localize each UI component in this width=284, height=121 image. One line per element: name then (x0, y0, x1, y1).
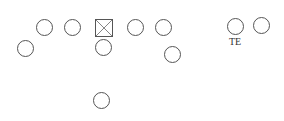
player-circle-wing-left (17, 40, 34, 57)
player-circle-quarterback (95, 39, 112, 56)
player-circle-tight-end (227, 18, 244, 35)
player-circle-left-outer (36, 19, 53, 36)
player-circle-left-guard (64, 19, 81, 36)
player-circle-right-guard (127, 19, 144, 36)
te-label: TE (229, 37, 241, 47)
formation-diagram: TE (0, 0, 284, 121)
player-circle-back-right (164, 46, 181, 63)
player-circle-deep-back (93, 92, 110, 109)
center-square-x-icon (95, 19, 113, 37)
player-circle-wide-right (253, 17, 270, 34)
player-circle-right-tackle (155, 19, 172, 36)
